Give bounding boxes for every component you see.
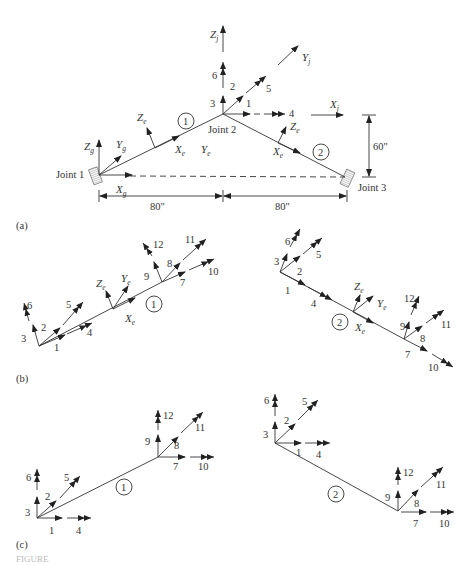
dof-12-label: 12 [153, 239, 164, 250]
dof-6-label: 6 [26, 472, 31, 483]
dof-2-arrow-icon [275, 424, 295, 443]
panel-b-member-1: 3 6 2 5 1 4 Ze Ye Xe 1 9 12 8 11 7 10 [21, 234, 219, 353]
dof-4-label: 4 [76, 525, 82, 536]
zg-label: Zg [84, 140, 94, 155]
joint-axes: Zj Yj Xj [210, 26, 343, 115]
panel-c: 3 6 2 5 1 4 1 9 12 8 11 7 10 [16, 394, 454, 564]
yg-label: Yg [116, 138, 126, 153]
xe-label: Xe [272, 145, 284, 160]
panel-b-label: (b) [16, 373, 29, 385]
dof-11-label: 11 [441, 319, 451, 330]
dof-11-label: 11 [185, 234, 195, 245]
dof-6-label: 6 [285, 236, 290, 247]
panel-b: 3 6 2 5 1 4 Ze Ye Xe 1 9 12 8 11 7 10 [16, 229, 453, 385]
global-axes: Zg Yg Xg [84, 138, 132, 198]
dof-4-label: 4 [289, 108, 295, 119]
dof-9-label: 9 [385, 492, 390, 503]
dof-12-label: 12 [403, 467, 414, 478]
dof-8-label: 8 [174, 440, 179, 451]
dof-5-label: 5 [302, 396, 307, 407]
baseline-dashed [130, 176, 345, 177]
dof-9-label: 9 [145, 436, 150, 447]
joint-3-label: Joint 3 [358, 182, 386, 193]
dof-4-label: 4 [316, 449, 322, 460]
dof-7-label: 7 [413, 518, 418, 529]
ze-arrow-icon [278, 127, 286, 143]
dof-10-label: 10 [198, 461, 209, 472]
dof-1-label: 1 [49, 525, 54, 536]
dof-9-arrow-icon [154, 262, 162, 282]
dof-1-label: 1 [285, 285, 290, 296]
dof-3-label: 3 [21, 333, 26, 344]
dof-9-label: 9 [400, 321, 405, 332]
element-axes-member-2: Ze Xe [272, 120, 300, 160]
dof-7-label: 7 [180, 277, 185, 288]
joint-2-label: Joint 2 [208, 124, 236, 135]
xe-label: Xe [174, 143, 186, 158]
dof-6-label: 6 [27, 300, 32, 311]
dof-3-label: 3 [274, 256, 279, 267]
dof-7-label: 7 [173, 461, 178, 472]
dof-12-arrow-icon [143, 243, 152, 256]
member-1-line [37, 457, 158, 518]
dof-5-arrow-icon [60, 476, 80, 498]
support-joint-1 [89, 167, 103, 185]
dof-7-label: 7 [405, 349, 410, 360]
dof-12-label: 12 [404, 293, 415, 304]
dof-5-label: 5 [66, 299, 71, 310]
member-1-number: 1 [183, 116, 188, 127]
dof-10-label: 10 [208, 266, 219, 277]
ze-arrow-icon [106, 291, 113, 309]
dof-3-label: 3 [210, 98, 215, 109]
dof-1-label: 1 [246, 98, 251, 109]
panel-a: Joint 1 Joint 2 Joint 3 1 2 Zg Yg Xg Ze … [16, 26, 388, 232]
dof-2-label: 2 [297, 266, 302, 277]
dof-9-label: 9 [144, 271, 149, 282]
member-2-number: 2 [318, 147, 323, 158]
dim-right-label: 80" [275, 201, 290, 212]
dof-3-label: 3 [25, 507, 30, 518]
dof-2-label: 2 [284, 415, 289, 426]
ze-label: Ze [96, 277, 106, 292]
xe-label: Xe [124, 312, 136, 327]
ze-label: Ze [290, 120, 300, 135]
dim-height-label: 60" [373, 141, 388, 152]
dof-6-label: 6 [212, 70, 217, 81]
dof-11-label: 11 [195, 422, 205, 433]
panel-c-member-2: 3 6 2 5 1 4 2 9 12 8 11 7 10 [263, 394, 454, 529]
panel-a-label: (a) [16, 220, 28, 232]
ye-label: Ye [201, 143, 211, 158]
dof-3-arrow-icon [33, 325, 39, 346]
panel-c-member-1: 3 6 2 5 1 4 1 9 12 8 11 7 10 [25, 410, 214, 536]
joint-1-label: Joint 1 [56, 169, 84, 180]
dof-11-label: 11 [436, 479, 446, 490]
dof-5-arrow-icon [246, 76, 266, 93]
dof-12-label: 12 [163, 410, 174, 421]
dof-5-label: 5 [316, 249, 321, 260]
dof-4-label: 4 [87, 327, 93, 338]
dof-6-arrow-icon [290, 229, 300, 247]
dof-1-label: 1 [296, 447, 301, 458]
dof-2-label: 2 [41, 322, 46, 333]
support-joint-3 [340, 169, 355, 187]
dof-6-label: 6 [264, 395, 269, 406]
dof-5-label: 5 [266, 83, 271, 94]
ze-label: Ze [137, 111, 147, 126]
ze-label: Ze [354, 280, 364, 295]
dof-4-label: 4 [311, 298, 317, 309]
dof-5-arrow-icon [298, 400, 318, 420]
ze-arrow-icon [147, 128, 155, 148]
xe-label: Xe [354, 321, 366, 336]
dof-10-label: 10 [428, 362, 439, 373]
ye-label: Ye [377, 297, 387, 312]
dof-1-label: 1 [54, 342, 59, 353]
yj-arrow-icon [278, 46, 298, 65]
dof-2-label: 2 [45, 491, 50, 502]
ye-label: Ye [121, 272, 131, 287]
joint-2-dofs: 3 6 2 1 5 4 [210, 62, 295, 119]
dof-2-arrow-icon [223, 96, 243, 114]
dof-10-label: 10 [439, 518, 450, 529]
panel-b-member-2: 3 6 2 5 1 4 Ze Ye Xe 2 9 12 8 11 7 10 [274, 229, 453, 373]
member-1-number: 1 [151, 299, 156, 310]
dof-8-label: 8 [414, 498, 419, 509]
